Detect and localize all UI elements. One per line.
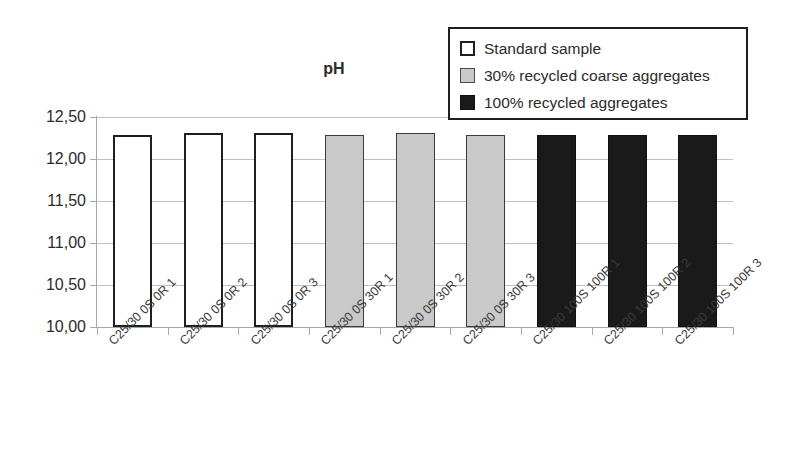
legend-item: Standard sample [460,35,738,62]
x-axis-tick [521,328,522,335]
legend-label: Standard sample [484,40,601,58]
x-axis-tick [380,328,381,335]
legend-item: 100% recycled aggregates [460,89,738,116]
y-axis-label: 10,00 [46,318,86,336]
x-axis-tick [592,328,593,335]
y-axis-line [96,116,97,328]
x-axis-tick [309,328,310,335]
y-axis-tick [90,243,97,244]
y-axis-label: 11,50 [47,192,86,210]
y-axis-label: 12,50 [46,108,86,126]
legend-label: 100% recycled aggregates [484,94,668,112]
x-axis-tick [450,328,451,335]
y-axis-label: 12,00 [46,150,86,168]
legend-swatch-icon [460,95,475,110]
y-axis-tick [90,327,97,328]
chart-legend: Standard sample30% recycled coarse aggre… [448,27,748,120]
y-axis-label: 10,50 [46,276,86,294]
y-axis-tick [90,117,97,118]
legend-swatch-icon [460,41,475,56]
y-axis-tick [90,159,97,160]
y-axis-tick [90,201,97,202]
ph-bar-chart: pH 12,5012,0011,5011,0010,5010,00 C25/30… [0,0,788,475]
legend-item: 30% recycled coarse aggregates [460,62,738,89]
legend-label: 30% recycled coarse aggregates [484,67,710,85]
x-axis-tick [238,328,239,335]
y-axis-label: 11,00 [47,234,86,252]
x-axis-tick [662,328,663,335]
x-axis-tick [97,328,98,335]
x-axis-tick [733,328,734,335]
legend-swatch-icon [460,68,475,83]
y-axis-tick [90,285,97,286]
x-axis-tick [168,328,169,335]
